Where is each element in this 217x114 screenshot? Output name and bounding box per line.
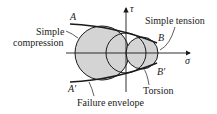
simple-compression-label-1: Simple (36, 26, 65, 37)
tau-label: τ (130, 3, 134, 14)
point-a-label: A (69, 11, 77, 22)
torsion-leader (143, 68, 149, 85)
point-b-label: B (158, 32, 164, 43)
simple-tension-label: Simple tension (145, 15, 205, 26)
point-a-prime-label: A′ (67, 83, 77, 94)
envelope-leader (89, 82, 94, 96)
failure-envelope-label: Failure envelope (77, 97, 144, 108)
mohr-diagram: A A′ B B′ τ σ Simple compression Simple … (0, 0, 217, 114)
simple-compression-label-2: compression (13, 37, 64, 48)
sigma-label: σ (185, 55, 191, 66)
torsion-label: Torsion (143, 85, 173, 96)
point-b-prime-label: B′ (157, 66, 166, 77)
compression-leader (66, 31, 78, 38)
